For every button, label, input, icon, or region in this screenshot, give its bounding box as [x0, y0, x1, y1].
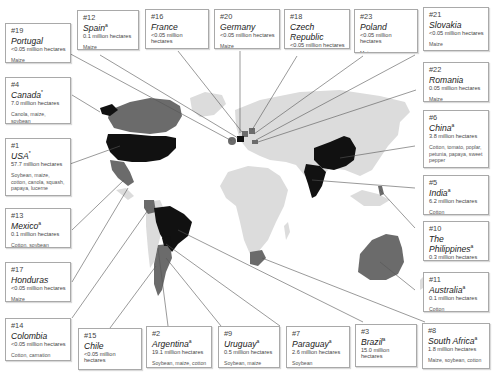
country-name: Australia	[429, 285, 462, 295]
country-card-germany: #20 Germany <0.05 million hectares Maize	[214, 9, 280, 49]
country-card-south-africa: #8 South Africaa 1.8 million hectares Ma…	[422, 323, 490, 369]
country-name: Canada	[11, 90, 41, 100]
country-name: Chile	[84, 341, 104, 351]
country-card-colombia: #14 Colombia <0.05 million hectares Cott…	[5, 318, 71, 361]
country-name: Uruguay	[224, 339, 256, 349]
country-card-australia: #11 Australiaa 0.1 million hectares Cott…	[423, 272, 489, 312]
country-card-mexico: #13 Mexicoa 0.1 million hectares Cotton,…	[5, 208, 71, 248]
country-name: Czech Republic	[290, 22, 323, 42]
world-map	[0, 0, 492, 376]
country-card-paraguay: #7 Paraguaya 2.6 million hectares Soybea…	[286, 326, 350, 368]
country-name: South Africa	[428, 336, 475, 346]
country-name: Mexico	[11, 221, 38, 231]
country-card-slovakia: #21 Slovakia <0.05 million hectares Maiz…	[423, 7, 489, 51]
region-australia	[358, 234, 404, 280]
country-card-honduras: #17 Honduras <0.05 million hectares Maiz…	[5, 262, 71, 302]
country-card-france: #16 France <0.05 million hectares Maize	[145, 9, 209, 49]
country-card-argentina: #2 Argentinaa 19.1 million hectares Soyb…	[146, 326, 212, 368]
country-card-czech-republic: #18 Czech Republic <0.05 million hectare…	[284, 9, 350, 49]
country-name: France	[151, 22, 178, 32]
country-card-usa: #1 USA* 57.7 million hectares Soybean, m…	[5, 138, 71, 196]
country-name: China	[429, 123, 451, 133]
region-usa	[106, 134, 176, 162]
country-name: Colombia	[11, 331, 47, 341]
country-card-china: #6 Chinaa 3.8 million hectares Cotton, t…	[423, 110, 489, 168]
country-name: Spain	[83, 23, 105, 33]
country-card-chile: #15 Chile <0.05 million hectares Maize, …	[78, 328, 142, 370]
country-name: Honduras	[11, 275, 48, 285]
country-name: Argentina	[152, 339, 189, 349]
country-card-romania: #22 Romania 0.05 million hectares Maize	[423, 62, 489, 102]
country-name: Romania	[429, 75, 463, 85]
region-south-africa	[250, 250, 266, 266]
country-name: India	[429, 188, 448, 198]
region-canada	[108, 98, 182, 134]
country-card-india: #5 Indiaa 6.2 million hectares Cotton	[423, 175, 489, 215]
country-name: Brazil	[361, 337, 383, 347]
country-name: Portugal	[11, 36, 43, 46]
country-name: Slovakia	[429, 20, 461, 30]
country-card-spain: #12 Spaina 0.1 million hectares Maize	[77, 10, 139, 50]
country-card-portugal: #19 Portugal <0.05 million hectares Maiz…	[5, 23, 71, 63]
country-name: USA	[11, 151, 29, 161]
country-name: Poland	[360, 22, 387, 32]
region-colombia	[144, 200, 156, 214]
country-name: Paraguay	[292, 339, 329, 349]
country-card-uruguay: #9 Uruguaya 0.5 million hectares Soybean…	[218, 326, 280, 368]
country-card-philippines: #10 The Philippinesa 0.3 million hectare…	[423, 221, 489, 261]
country-name: The Philippines	[429, 234, 471, 254]
country-card-brazil: #3 Brazila 15.0 million hectares Soybean…	[355, 324, 417, 367]
country-card-canada: #4 Canada* 7.0 million hectares Canola, …	[5, 77, 71, 124]
country-card-poland: #23 Poland <0.05 million hectares Maize	[354, 9, 418, 53]
country-name: Germany	[220, 22, 255, 32]
